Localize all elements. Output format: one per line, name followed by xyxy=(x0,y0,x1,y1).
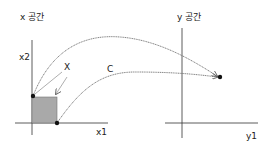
y1-axis-label: y1 xyxy=(246,132,257,141)
y-space-axes xyxy=(165,28,258,138)
point-y-image xyxy=(218,75,222,79)
x1-axis-label: x1 xyxy=(96,128,107,137)
region-x xyxy=(32,97,57,123)
diagram-canvas xyxy=(0,0,274,150)
x-space-title: x 공간 xyxy=(20,13,44,22)
x2-axis-label: x2 xyxy=(19,53,30,62)
mapping-curve-lower xyxy=(57,72,217,123)
point-x-top xyxy=(31,94,35,98)
point-x-right xyxy=(55,121,59,125)
mapping-c-label: C xyxy=(107,65,113,74)
y-space-title: y 공간 xyxy=(177,13,201,22)
region-x-label: X xyxy=(64,63,70,72)
region-pointer-arrow xyxy=(56,77,67,94)
